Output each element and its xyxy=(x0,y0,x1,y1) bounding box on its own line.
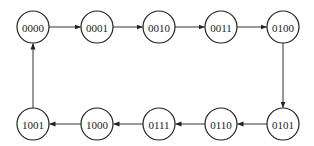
state-label: 0001 xyxy=(86,22,108,34)
state-node-0001: 0001 xyxy=(81,11,113,43)
state-node-0010: 0010 xyxy=(143,11,175,43)
state-node-0011: 0011 xyxy=(205,11,237,43)
state-label: 0010 xyxy=(148,22,171,34)
state-nodes: 0000000100100011010001010110011110001001 xyxy=(17,11,299,140)
state-label: 0111 xyxy=(148,119,169,131)
state-node-0100: 0100 xyxy=(267,11,299,43)
state-label: 0000 xyxy=(22,22,45,34)
state-node-1000: 1000 xyxy=(81,108,113,140)
state-label: 0101 xyxy=(272,119,294,131)
state-node-0110: 0110 xyxy=(205,108,237,140)
state-label: 0110 xyxy=(210,119,232,131)
state-label: 1000 xyxy=(86,119,109,131)
state-node-1001: 1001 xyxy=(17,108,49,140)
state-node-0000: 0000 xyxy=(17,11,49,43)
state-node-0101: 0101 xyxy=(267,108,299,140)
state-label: 0100 xyxy=(272,22,295,34)
state-node-0111: 0111 xyxy=(143,108,175,140)
state-diagram: 0000000100100011010001010110011110001001 xyxy=(0,0,314,146)
state-label: 1001 xyxy=(22,119,44,131)
state-label: 0011 xyxy=(210,22,232,34)
